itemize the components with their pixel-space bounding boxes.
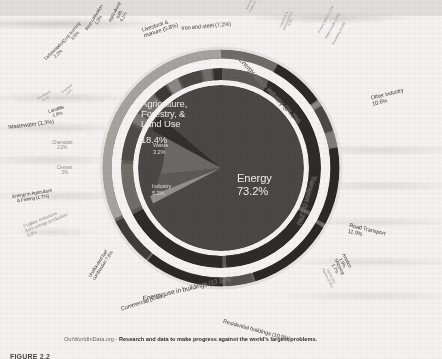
center-industry-label: Industry: [152, 183, 171, 189]
center-waste-label: Waste: [153, 142, 168, 148]
label-chemicals: Chemicals 2.2%: [52, 141, 73, 151]
figure-caption: FIGURE 2.2: [10, 353, 50, 359]
footer-brand[interactable]: OurWorldInData.org: [64, 336, 114, 342]
center-energy-value: 73.2%: [237, 185, 268, 197]
center-afolu-label: Agriculture, Forestry, & Land Use: [141, 99, 187, 129]
center-energy-label: Energy: [237, 172, 272, 184]
sunburst-svg: [0, 0, 442, 359]
center-industry-value: 5.2%: [152, 190, 164, 196]
footer-credit: OurWorldInData.org - Research and data t…: [64, 336, 317, 342]
footer-text: Research and data to make progress again…: [119, 336, 317, 342]
center-waste-value: 3.2%: [153, 149, 165, 155]
label-cement: Cement 3%: [57, 166, 73, 176]
sunburst-chart: [0, 0, 442, 359]
